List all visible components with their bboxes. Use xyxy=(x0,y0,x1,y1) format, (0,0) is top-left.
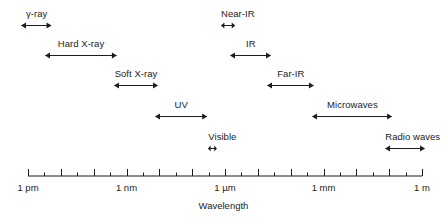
band-microwaves: Microwaves xyxy=(312,99,392,125)
band-hard-x-ray: Hard X-ray xyxy=(45,38,117,64)
band-gamma-ray: γ-ray xyxy=(21,8,52,34)
band-arrow-soft-x-ray xyxy=(114,81,158,90)
axis-tick-label-0: 1 pm xyxy=(17,182,38,193)
band-label-far-ir: Far-IR xyxy=(267,68,314,79)
double-headed-arrow-icon xyxy=(230,51,271,60)
band-uv: UV xyxy=(155,99,207,125)
band-ir: IR xyxy=(230,38,271,64)
band-label-soft-x-ray: Soft X-ray xyxy=(114,68,158,79)
band-label-hard-x-ray: Hard X-ray xyxy=(45,38,117,49)
axis-title: Wavelength xyxy=(0,200,447,211)
band-arrow-hard-x-ray xyxy=(45,51,117,60)
band-radio-waves: Radio waves xyxy=(385,131,425,157)
double-headed-arrow-icon xyxy=(208,144,217,153)
band-arrow-radio-waves xyxy=(385,144,425,153)
band-label-gamma-ray: γ-ray xyxy=(21,8,52,19)
band-label-microwaves: Microwaves xyxy=(312,99,392,110)
axis-tick-label-3: 1 mm xyxy=(312,182,336,193)
double-headed-arrow-icon xyxy=(221,21,235,30)
double-headed-arrow-icon xyxy=(267,81,314,90)
double-headed-arrow-icon xyxy=(114,81,158,90)
band-label-near-ir: Near-IR xyxy=(221,8,235,19)
band-arrow-microwaves xyxy=(312,112,392,121)
band-visible: Visible xyxy=(208,131,217,157)
band-arrow-near-ir xyxy=(221,21,235,30)
band-label-visible: Visible xyxy=(208,131,217,142)
band-label-ir: IR xyxy=(230,38,271,49)
axis-tick-label-2: 1 µm xyxy=(214,182,235,193)
double-headed-arrow-icon xyxy=(385,144,425,153)
band-arrow-visible xyxy=(208,144,217,153)
double-headed-arrow-icon xyxy=(45,51,117,60)
double-headed-arrow-icon xyxy=(21,21,52,30)
electromagnetic-spectrum-figure: γ-rayHard X-raySoft X-rayUVVisibleNear-I… xyxy=(0,0,447,223)
axis-tick-label-4: 1 m xyxy=(414,182,430,193)
band-arrow-gamma-ray xyxy=(21,21,52,30)
band-label-radio-waves: Radio waves xyxy=(385,131,425,142)
band-arrow-far-ir xyxy=(267,81,314,90)
band-far-ir: Far-IR xyxy=(267,68,314,94)
band-near-ir: Near-IR xyxy=(221,8,235,34)
double-headed-arrow-icon xyxy=(155,112,207,121)
band-arrow-uv xyxy=(155,112,207,121)
double-headed-arrow-icon xyxy=(312,112,392,121)
axis-tick-label-1: 1 nm xyxy=(116,182,137,193)
band-arrow-ir xyxy=(230,51,271,60)
band-soft-x-ray: Soft X-ray xyxy=(114,68,158,94)
band-label-uv: UV xyxy=(155,99,207,110)
